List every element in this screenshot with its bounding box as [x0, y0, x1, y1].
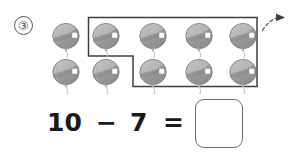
- worksheet-problem: ③: [0, 0, 296, 159]
- balloon-icon-6: [53, 59, 79, 93]
- equation-row: 10 − 7 =: [47, 100, 257, 152]
- balloon-icon-9: [186, 59, 212, 93]
- balloon-icon-2: [93, 23, 119, 57]
- equation-minuend: 10: [47, 108, 82, 138]
- balloon-icon-5: [230, 23, 256, 57]
- balloon-icon-7: [93, 59, 119, 93]
- answer-input-box[interactable]: [195, 99, 243, 148]
- balloon-icon-1: [53, 23, 79, 57]
- balloon-icon-4: [186, 23, 212, 57]
- equation-minus-operator: −: [96, 108, 117, 138]
- equation-equals-sign: =: [163, 108, 184, 138]
- balloon-icon-8: [140, 59, 166, 93]
- equation-subtrahend: 7: [130, 108, 147, 138]
- balloon-icon-3: [140, 23, 166, 57]
- balloon-icon-10: [230, 59, 256, 93]
- dashed-take-away-arrow: [263, 18, 279, 31]
- arrow-head-icon: [276, 14, 285, 22]
